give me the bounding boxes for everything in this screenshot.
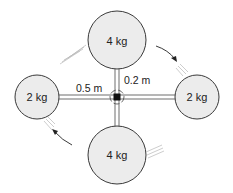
mass-top: 4 kg [88, 11, 146, 69]
vertical-rod-top [115, 68, 119, 96]
horizontal-rod-right [118, 95, 176, 99]
vertical-arm-label: 0.2 m [124, 74, 151, 86]
mass-bottom: 4 kg [88, 126, 146, 184]
mass-bottom-label: 4 kg [107, 149, 128, 161]
vertical-rod-bottom [115, 98, 119, 127]
mass-right-label: 2 kg [187, 91, 208, 103]
mass-right: 2 kg [175, 75, 219, 119]
rotation-arrow-top-right-icon [156, 46, 177, 62]
mass-left: 2 kg [15, 75, 59, 119]
rotation-arrow-bottom-left-icon [52, 129, 72, 145]
mass-top-label: 4 kg [107, 35, 128, 47]
mass-left-label: 2 kg [27, 91, 48, 103]
horizontal-rod-left [58, 95, 116, 99]
horizontal-arm-label: 0.5 m [76, 82, 103, 94]
rotating-masses-diagram: 4 kg 4 kg 2 kg 2 kg 0.5 m 0.2 m [0, 0, 233, 193]
